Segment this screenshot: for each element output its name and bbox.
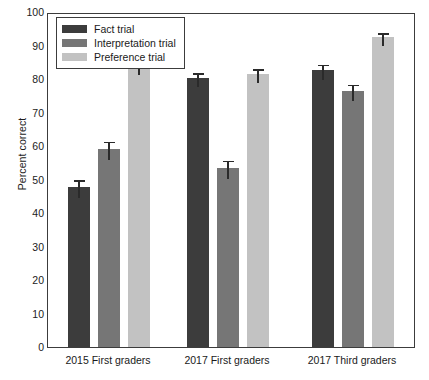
bar-chart-figure: Percent correct 0102030405060708090100 2… — [0, 0, 429, 380]
y-axis-tick-label: 10 — [4, 308, 44, 320]
error-bar — [257, 69, 259, 82]
legend-swatch — [62, 25, 87, 33]
error-bar-cap — [193, 73, 204, 75]
bar — [247, 74, 269, 347]
y-axis-tick-label: 40 — [4, 207, 44, 219]
legend-swatch — [62, 39, 87, 47]
bar — [98, 149, 120, 347]
error-bar-cap — [348, 85, 359, 87]
legend-label: Preference trial — [94, 51, 165, 63]
y-axis-tick-label: 100 — [4, 6, 44, 18]
x-axis-group-label: 2017 Third graders — [292, 354, 412, 366]
y-axis-tick-label: 20 — [4, 274, 44, 286]
error-bar — [382, 33, 384, 46]
y-axis-title: Percent correct — [16, 84, 28, 224]
y-axis-tick-label: 60 — [4, 140, 44, 152]
y-axis-tick-label: 80 — [4, 73, 44, 85]
legend-item: Preference trial — [62, 50, 176, 64]
legend-label: Fact trial — [94, 23, 134, 35]
bar — [68, 187, 90, 347]
chart-legend: Fact trialInterpretation trialPreference… — [56, 17, 185, 69]
error-bar-cap — [378, 33, 389, 35]
error-bar-cap — [104, 142, 115, 144]
error-bar-cap — [318, 65, 329, 67]
y-axis-tick-label: 30 — [4, 241, 44, 253]
y-axis-tick-label: 50 — [4, 174, 44, 186]
y-axis-tick-label: 70 — [4, 107, 44, 119]
error-bar-cap — [74, 180, 85, 182]
bar — [342, 91, 364, 347]
error-bar — [352, 85, 354, 102]
legend-label: Interpretation trial — [94, 37, 176, 49]
legend-item: Interpretation trial — [62, 36, 176, 50]
bar — [312, 70, 334, 347]
bar — [372, 37, 394, 347]
error-bar — [108, 142, 110, 161]
error-bar-cap — [253, 69, 264, 71]
error-bar-cap — [223, 161, 234, 163]
error-bar — [322, 65, 324, 80]
bar — [128, 66, 150, 347]
y-axis-tick-label: 90 — [4, 40, 44, 52]
y-axis-tick-label: 0 — [4, 341, 44, 353]
error-bar — [227, 161, 229, 179]
bar — [187, 78, 209, 347]
error-bar — [78, 180, 80, 197]
error-bar — [197, 73, 199, 86]
x-axis-group-label: 2017 First graders — [167, 354, 287, 366]
x-axis-group-label: 2015 First graders — [48, 354, 168, 366]
legend-swatch — [62, 53, 87, 61]
bar — [217, 168, 239, 347]
legend-item: Fact trial — [62, 22, 176, 36]
